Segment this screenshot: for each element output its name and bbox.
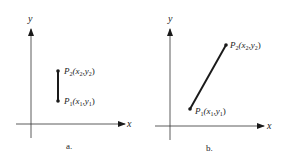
segment-b [190, 45, 226, 109]
x-axis-label-b: x [266, 120, 272, 131]
y-axis-label-b: y [167, 13, 173, 24]
label-p2-a: P2(x2,y2) [63, 66, 95, 77]
caption-b: b. [206, 143, 213, 153]
label-p1-b: P1(x1,y1) [194, 106, 226, 117]
y-axis-label-a: y [27, 13, 33, 24]
caption-a: a. [66, 141, 72, 151]
point-p1-b [188, 107, 192, 111]
diagram-canvas: y x P2(x2,y2) P1(x1,y1) a. y x P2(x2,y2)… [0, 0, 283, 156]
point-p1-a [56, 99, 60, 103]
panel-a: y x P2(x2,y2) P1(x1,y1) a. [16, 13, 132, 151]
point-p2-a [56, 69, 60, 73]
x-axis-label-a: x [126, 118, 132, 129]
panel-b: y x P2(x2,y2) P1(x1,y1) b. [155, 13, 272, 153]
point-p2-b [224, 43, 228, 47]
label-p1-a: P1(x1,y1) [63, 96, 95, 107]
label-p2-b: P2(x2,y2) [229, 40, 261, 51]
